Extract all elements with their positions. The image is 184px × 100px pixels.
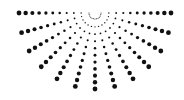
sunburst-dot — [76, 42, 79, 45]
sunburst-dot — [89, 16, 90, 17]
sunburst-dot — [67, 19, 69, 21]
sunburst-dot — [147, 42, 151, 46]
sunburst-dot — [93, 67, 97, 71]
sunburst-dot — [93, 87, 98, 92]
sunburst-dot — [142, 39, 146, 43]
sunburst-dot — [149, 11, 153, 15]
sunburst-dot — [106, 19, 107, 20]
sunburst-dot — [115, 12, 117, 14]
sunburst-dot — [124, 29, 127, 32]
sunburst-dot — [160, 29, 164, 33]
sunburst-dot — [44, 60, 48, 64]
sunburst-dot — [64, 41, 67, 44]
sunburst-dot — [59, 46, 62, 49]
sunburst-dot — [101, 39, 103, 41]
sunburst-dot — [33, 45, 37, 49]
sunburst-dot — [142, 11, 145, 14]
sunburst-dot — [94, 54, 97, 57]
sunburst-dot — [79, 65, 83, 69]
sunburst-dot — [108, 12, 109, 13]
sunburst-dot — [101, 24, 102, 25]
sunburst-dot — [79, 27, 81, 29]
sunburst-dot — [89, 33, 91, 35]
sunburst-dot — [83, 52, 86, 55]
sunburst-dot — [94, 26, 95, 27]
sunburst-dot — [93, 60, 96, 63]
sunburst-dot — [92, 18, 93, 19]
sunburst-dot — [17, 11, 22, 16]
sunburst-dot — [95, 19, 96, 20]
sunburst-dot — [87, 24, 88, 25]
sunburst-dot — [100, 14, 101, 15]
sunburst-dot — [156, 11, 160, 15]
sunburst-dot — [80, 12, 81, 13]
sunburst-dot — [142, 60, 146, 64]
sunburst-dot — [134, 22, 137, 25]
sunburst-dot — [39, 64, 44, 69]
sunburst-dot — [136, 36, 139, 39]
sunburst-dot — [136, 12, 139, 15]
sunburst-dot — [55, 76, 60, 81]
sunburst-dot — [73, 84, 78, 89]
sunburst-dot — [82, 19, 83, 20]
sunburst-dot — [118, 54, 121, 57]
sunburst-dot — [121, 19, 123, 21]
sunburst-dot — [137, 55, 141, 59]
sunburst-dot — [94, 40, 96, 42]
sunburst-dot — [46, 24, 49, 27]
sunburst-dot — [98, 18, 99, 19]
sunburst-dot — [69, 26, 71, 28]
sunburst-dot — [108, 36, 110, 38]
sunburst-dot — [153, 27, 157, 31]
sunburst-dot — [106, 59, 109, 62]
sunburst-dot — [58, 12, 61, 15]
sunburst-dot — [85, 22, 86, 23]
sunburst-dot — [124, 65, 128, 69]
sunburst-dot — [73, 12, 75, 14]
sunburst-dot — [66, 12, 68, 14]
sunburst-dot — [119, 37, 122, 40]
dotted-sunburst-logo — [0, 0, 184, 100]
sunburst-dot — [153, 45, 157, 49]
sunburst-dot — [131, 76, 136, 81]
sunburst-dot — [30, 11, 34, 15]
sunburst-dot — [146, 64, 151, 69]
sunburst-dot — [127, 71, 131, 75]
sunburst-dot — [128, 46, 131, 49]
sunburst-dot — [81, 16, 82, 17]
sunburst-dot — [26, 29, 30, 33]
sunburst-dot — [128, 21, 131, 24]
sunburst-dot — [60, 21, 63, 24]
sunburst-dot — [85, 46, 88, 49]
sunburst-dot — [54, 51, 58, 55]
sunburst-dot — [32, 27, 36, 31]
sunburst-dot — [115, 18, 117, 20]
sunburst-dot — [109, 71, 113, 75]
sunburst-dot — [53, 22, 56, 25]
sunburst-dot — [51, 36, 54, 39]
sunburst-dot — [112, 23, 114, 25]
sunburst-dot — [77, 71, 81, 75]
sunburst-dot — [129, 12, 132, 15]
sunburst-dot — [105, 30, 107, 32]
sunburst-dot — [162, 11, 166, 15]
sunburst-dot — [39, 26, 43, 30]
sunburst-dot — [158, 49, 163, 54]
sunburst-dot — [133, 51, 137, 55]
sunburst-dot — [115, 48, 118, 51]
sunburst-dot — [23, 11, 27, 15]
sunburst-dot — [63, 29, 66, 32]
sunburst-dot — [114, 32, 116, 34]
sunburst-dot — [94, 47, 97, 50]
sunburst-dot — [69, 54, 72, 57]
sunburst-dot — [112, 84, 117, 89]
sunburst-dot — [39, 42, 43, 46]
sunburst-dot — [166, 30, 171, 35]
sunburst-dot — [80, 36, 82, 38]
sunburst-dot — [104, 52, 107, 55]
sunburst-dot — [169, 11, 174, 16]
sunburst-dot — [98, 26, 99, 27]
sunburst-dot — [109, 27, 111, 29]
sunburst-dot — [99, 17, 100, 18]
sunburst-dot — [72, 48, 75, 51]
